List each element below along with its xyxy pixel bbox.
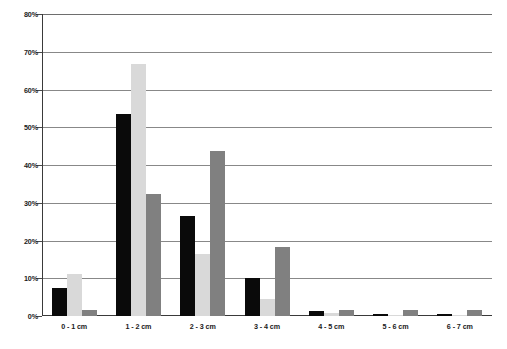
bar[interactable] — [195, 254, 210, 316]
x-axis-tick-label: 5 - 6 cm — [383, 322, 409, 331]
bar[interactable] — [116, 114, 131, 316]
bar[interactable] — [275, 247, 290, 316]
y-axis-tick-label: 80% — [4, 10, 38, 19]
bar[interactable] — [403, 310, 418, 316]
bar[interactable] — [180, 216, 195, 316]
bar[interactable] — [437, 314, 452, 316]
bar-group — [180, 14, 225, 316]
bar[interactable] — [260, 299, 275, 316]
x-axis-tick-label: 2 - 3 cm — [190, 322, 216, 331]
bar[interactable] — [245, 278, 260, 316]
x-axis: 0 - 1 cm1 - 2 cm2 - 3 cm3 - 4 cm4 - 5 cm… — [42, 322, 492, 340]
x-axis-tick-label: 4 - 5 cm — [318, 322, 344, 331]
bar[interactable] — [309, 311, 324, 316]
bars-layer — [42, 14, 492, 316]
bar[interactable] — [67, 274, 82, 316]
y-axis-tick-label: 10% — [4, 274, 38, 283]
bar-group — [245, 14, 290, 316]
bar[interactable] — [467, 310, 482, 316]
bar-group — [116, 14, 161, 316]
bar[interactable] — [131, 64, 146, 316]
y-axis-tick-label: 30% — [4, 198, 38, 207]
bar[interactable] — [52, 288, 67, 316]
bar[interactable] — [82, 310, 97, 316]
bar[interactable] — [452, 315, 467, 316]
x-axis-tick-label: 3 - 4 cm — [254, 322, 280, 331]
x-axis-tick-label: 1 - 2 cm — [125, 322, 151, 331]
bar[interactable] — [373, 314, 388, 316]
y-axis-tick-label: 50% — [4, 123, 38, 132]
bar-group — [437, 14, 482, 316]
bar[interactable] — [388, 315, 403, 316]
y-axis-tick-label: 70% — [4, 47, 38, 56]
y-axis-tick-label: 20% — [4, 236, 38, 245]
y-axis-tick-label: 40% — [4, 161, 38, 170]
y-axis-tick-label: 60% — [4, 85, 38, 94]
bar[interactable] — [210, 151, 225, 316]
bar-group — [52, 14, 97, 316]
bar[interactable] — [339, 310, 354, 316]
bar-group — [373, 14, 418, 316]
x-axis-tick-label: 6 - 7 cm — [447, 322, 473, 331]
bar[interactable] — [324, 313, 339, 316]
y-axis-tick-label: 0% — [4, 312, 38, 321]
bar-group — [309, 14, 354, 316]
bar-chart: 0%10%20%30%40%50%60%70%80% 0 - 1 cm1 - 2… — [0, 0, 507, 349]
y-axis: 0%10%20%30%40%50%60%70%80% — [0, 14, 38, 316]
x-axis-tick-label: 0 - 1 cm — [61, 322, 87, 331]
bar[interactable] — [146, 194, 161, 316]
